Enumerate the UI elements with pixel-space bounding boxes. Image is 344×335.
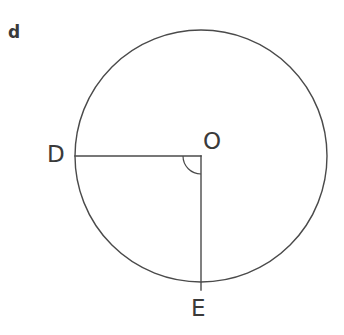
part-label: d bbox=[8, 24, 20, 41]
point-label-e: E bbox=[191, 297, 206, 320]
canvas-background bbox=[0, 0, 344, 335]
circle-diagram bbox=[0, 0, 344, 335]
point-label-d: D bbox=[47, 143, 65, 166]
point-label-o: O bbox=[203, 130, 221, 153]
